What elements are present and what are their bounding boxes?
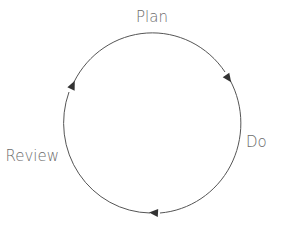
cycle-diagram: Plan Do Review [0,0,283,227]
stage-label-review: Review [5,147,59,165]
arc-do-to-review [160,80,241,213]
cycle-ring [64,33,241,213]
stage-label-plan: Plan [136,8,168,26]
arc-review-to-plan-to-do [74,33,225,82]
arc-bottom-to-left [64,92,150,213]
stage-label-do: Do [246,133,267,151]
arrowhead-bottom-icon [149,209,158,217]
arrowhead-left-icon [67,79,78,91]
arrowhead-right-icon [223,73,235,85]
